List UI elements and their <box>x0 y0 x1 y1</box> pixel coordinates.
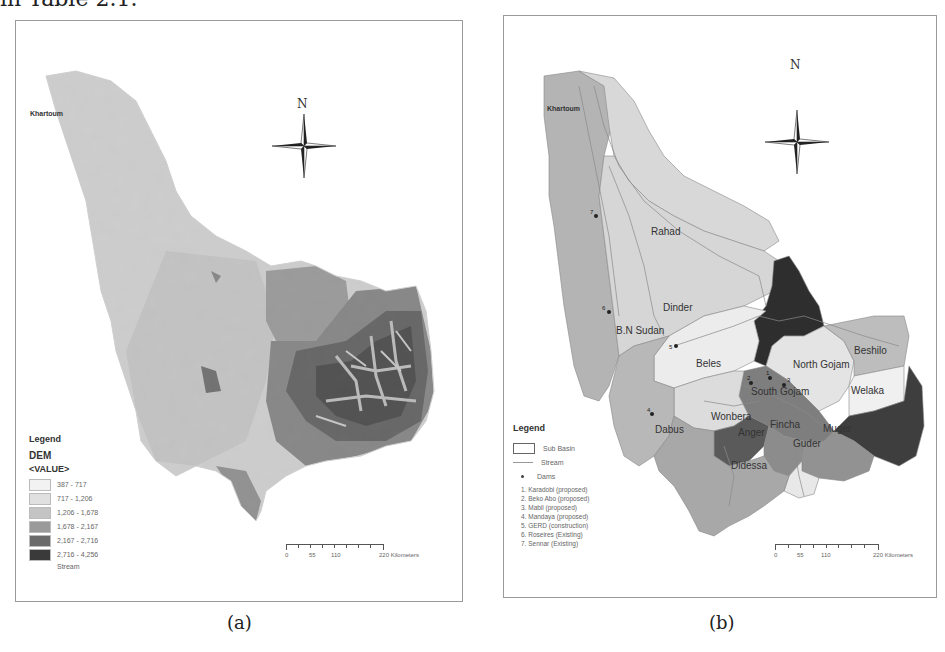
legend-layer-name: DEM <box>29 450 98 461</box>
legend-class: 2,716 - 4,256 <box>29 548 98 561</box>
dam-list-item: 6. Roseires (Existing) <box>521 530 589 539</box>
legend-class: 717 - 1,206 <box>29 492 98 505</box>
legend-stream: Stream <box>513 455 589 469</box>
legend-class-label: 387 - 717 <box>57 481 87 488</box>
north-arrow-icon <box>765 110 829 174</box>
legend-swatch <box>29 507 51 519</box>
subbasin-legend: Legend Sub Basin Stream Dams 1. Karadobi… <box>513 423 589 548</box>
dam-dot-icon <box>521 475 524 478</box>
scale-tick-label: 0 <box>285 552 288 558</box>
legend-stream-label: Stream <box>57 563 98 570</box>
legend-class-label: 717 - 1,206 <box>57 495 92 502</box>
basin-label-north-gojam: North Gojam <box>793 359 850 370</box>
legend-swatch <box>29 479 51 491</box>
scale-bar: 0 55 110 220 Kilometers <box>775 544 885 564</box>
dam-list-item: 3. Mabil (proposed) <box>521 503 589 512</box>
dam-list-item: 2. Beko Abo (proposed) <box>521 494 589 503</box>
legend-swatch <box>29 535 51 547</box>
scale-tick-label: 110 <box>821 552 831 558</box>
scale-tick-label: 220 Kilometers <box>873 552 913 558</box>
legend-swatch <box>29 549 51 561</box>
basin-label-welaka: Welaka <box>851 385 884 396</box>
city-label-khartoum: Khartoum <box>30 110 63 117</box>
dam-list: 1. Karadobi (proposed) 2. Beko Abo (prop… <box>521 485 589 548</box>
caption-b: (b) <box>709 612 735 633</box>
basin-label-rahad: Rahad <box>651 226 680 237</box>
north-label: N <box>297 97 308 111</box>
basin-label-beshilo: Beshilo <box>854 345 887 356</box>
scale-tick-label: 110 <box>331 552 341 558</box>
scale-bar: 0 55 110 220 Kilometers <box>286 544 396 564</box>
panel-b-subbasin-map: 1 2 3 4 5 6 7 N Khartoum Rahad Dinder B.… <box>503 15 937 598</box>
legend-class: 1,206 - 1,678 <box>29 506 98 519</box>
legend-line <box>513 462 533 463</box>
dam-list-item: 7. Sennar (Existing) <box>521 539 589 548</box>
basin-label-guder: Guder <box>793 438 821 449</box>
legend-sub-basin: Sub Basin <box>513 441 589 455</box>
legend-class-label: 2,716 - 4,256 <box>57 551 98 558</box>
legend-class: 2,167 - 2,716 <box>29 534 98 547</box>
city-label-khartoum: Khartoum <box>547 105 580 112</box>
legend-dams: Dams <box>513 469 589 483</box>
legend-swatch <box>29 493 51 505</box>
basin-label-bn-sudan: B.N Sudan <box>616 325 664 336</box>
legend-swatch <box>29 521 51 533</box>
legend-field-name: <VALUE> <box>29 464 98 474</box>
scale-tick-label: 55 <box>309 552 316 558</box>
scale-tick-label: 0 <box>774 552 777 558</box>
panel-a-dem-map: N Khartoum Legend DEM <VALUE> 387 - 717 … <box>15 20 463 602</box>
basin-label-anger: Anger <box>738 427 765 438</box>
basin-label-dinder: Dinder <box>663 302 692 313</box>
legend-class: 387 - 717 <box>29 478 98 491</box>
legend-label: Sub Basin <box>543 445 575 452</box>
legend-class: 1,678 - 2,167 <box>29 520 98 533</box>
north-label: N <box>790 58 801 72</box>
legend-title: Legend <box>29 434 98 444</box>
legend-title: Legend <box>513 423 589 433</box>
legend-swatch <box>513 443 535 454</box>
basin-label-muger: Muger <box>823 423 851 434</box>
dam-list-item: 4. Mandaya (proposed) <box>521 512 589 521</box>
legend-label: Dams <box>537 473 555 480</box>
dem-legend: Legend DEM <VALUE> 387 - 717 717 - 1,206… <box>29 434 98 570</box>
north-arrow-icon <box>272 114 336 178</box>
scale-tick-label: 55 <box>797 552 804 558</box>
basin-label-dabus: Dabus <box>655 424 684 435</box>
scale-tick-label: 220 Kilometers <box>379 552 419 558</box>
dam-list-item: 5. GERD (construction) <box>521 521 589 530</box>
legend-class-label: 2,167 - 2,716 <box>57 537 98 544</box>
basin-label-south-gojam: South Gojam <box>751 386 809 397</box>
basin-label-wonbera: Wonbera <box>711 411 751 422</box>
caption-a: (a) <box>227 612 252 633</box>
preceding-text: in Table 2.1. <box>0 0 137 11</box>
legend-class-label: 1,206 - 1,678 <box>57 509 98 516</box>
basin-label-beles: Beles <box>696 358 721 369</box>
basin-label-didessa: Didessa <box>731 460 767 471</box>
dam-list-item: 1. Karadobi (proposed) <box>521 485 589 494</box>
legend-class-label: 1,678 - 2,167 <box>57 523 98 530</box>
legend-label: Stream <box>541 459 564 466</box>
basin-label-fincha: Fincha <box>770 419 800 430</box>
